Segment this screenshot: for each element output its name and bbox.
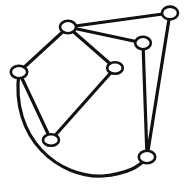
graph-node-n1[interactable] <box>60 21 76 33</box>
graph-figure <box>0 0 189 193</box>
graph-node-n2[interactable] <box>162 7 178 20</box>
graph-edge-n3-n7 <box>143 43 147 157</box>
graph-edge-n1-n5 <box>19 27 68 72</box>
graph-node-n5[interactable] <box>11 66 27 78</box>
graph-edge-n4-n6 <box>51 68 115 140</box>
graph-node-n4[interactable] <box>107 62 123 74</box>
graph-edge-n2-n7 <box>147 13 170 157</box>
graph-edge-n5-n6 <box>19 72 51 140</box>
graph-edge-n1-n2 <box>68 13 170 27</box>
graph-node-n7[interactable] <box>139 151 155 163</box>
graph-canvas <box>0 0 189 193</box>
graph-node-n3[interactable] <box>135 37 151 49</box>
graph-edge-n5-n7 <box>18 72 147 176</box>
node-layer <box>11 7 178 164</box>
graph-node-n6[interactable] <box>43 134 59 146</box>
